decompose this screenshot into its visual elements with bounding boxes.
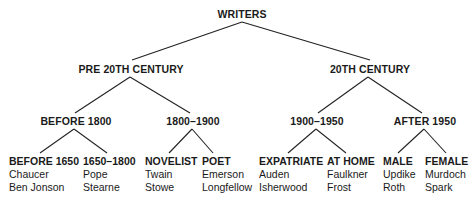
node-root-writers: WRITERS bbox=[217, 8, 266, 20]
node-after-1950: AFTER 1950 bbox=[394, 115, 456, 127]
leaf-poet: POET Emerson Longfellow bbox=[202, 155, 252, 194]
leaf-male: MALE Updike Roth bbox=[383, 155, 416, 194]
leaf-title: 1650–1800 bbox=[83, 155, 136, 168]
writer-name: Emerson bbox=[202, 168, 252, 181]
node-1800-1900: 1800–1900 bbox=[166, 115, 219, 127]
writer-name: Updike bbox=[383, 168, 416, 181]
node-before-1800: BEFORE 1800 bbox=[40, 115, 111, 127]
writer-name: Chaucer bbox=[9, 168, 79, 181]
writer-name: Isherwood bbox=[259, 181, 323, 194]
writer-name: Auden bbox=[259, 168, 323, 181]
writer-name: Longfellow bbox=[202, 181, 252, 194]
writer-name: Roth bbox=[383, 181, 416, 194]
leaf-novelist: NOVELIST Twain Stowe bbox=[145, 155, 198, 194]
leaf-expatriate: EXPATRIATE Auden Isherwood bbox=[259, 155, 323, 194]
writer-name: Twain bbox=[145, 168, 198, 181]
node-20th-century: 20TH CENTURY bbox=[330, 63, 410, 75]
leaf-title: BEFORE 1650 bbox=[9, 155, 79, 168]
leaf-title: NOVELIST bbox=[145, 155, 198, 168]
leaf-title: AT HOME bbox=[327, 155, 375, 168]
leaf-title: MALE bbox=[383, 155, 416, 168]
writer-name: Pope bbox=[83, 168, 136, 181]
leaf-female: FEMALE Murdoch Spark bbox=[425, 155, 468, 194]
leaf-at-home: AT HOME Faulkner Frost bbox=[327, 155, 375, 194]
writer-name: Frost bbox=[327, 181, 375, 194]
leaf-before-1650: BEFORE 1650 Chaucer Ben Jonson bbox=[9, 155, 79, 194]
writer-name: Faulkner bbox=[327, 168, 375, 181]
writer-name: Spark bbox=[425, 181, 468, 194]
leaf-title: FEMALE bbox=[425, 155, 468, 168]
leaf-1650-1800: 1650–1800 Pope Stearne bbox=[83, 155, 136, 194]
writer-name: Stearne bbox=[83, 181, 136, 194]
leaf-title: POET bbox=[202, 155, 252, 168]
writer-name: Murdoch bbox=[425, 168, 468, 181]
writer-name: Ben Jonson bbox=[9, 181, 79, 194]
writer-name: Stowe bbox=[145, 181, 198, 194]
node-pre-20th-century: PRE 20TH CENTURY bbox=[78, 63, 183, 75]
leaf-title: EXPATRIATE bbox=[259, 155, 323, 168]
node-1900-1950: 1900–1950 bbox=[290, 115, 343, 127]
